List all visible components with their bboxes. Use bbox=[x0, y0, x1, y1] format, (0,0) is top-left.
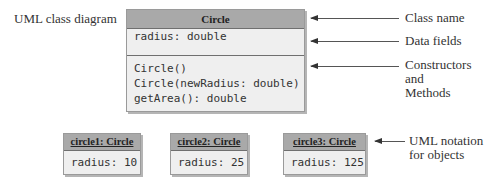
annotation-objects-line1: UML notation bbox=[409, 134, 483, 148]
object-box-circle3: circle3: Circle radius: 125 bbox=[283, 133, 366, 175]
arrow-left-icon bbox=[375, 141, 405, 142]
object-field: radius: 25 bbox=[171, 151, 247, 175]
method-get-area: getArea(): double bbox=[134, 91, 304, 106]
arrow-left-icon bbox=[311, 18, 399, 19]
annotation-class-name: Class name bbox=[405, 11, 465, 25]
class-name-header: Circle bbox=[127, 10, 304, 29]
annotation-constructors-line1: Constructors and bbox=[405, 58, 493, 86]
object-box-circle2: circle2: Circle radius: 25 bbox=[170, 133, 248, 175]
annotation-uml-objects: UML notation for objects bbox=[409, 134, 483, 162]
method-constructor-default: Circle() bbox=[134, 61, 304, 76]
data-fields-section: radius: double bbox=[127, 29, 304, 55]
object-field: radius: 125 bbox=[284, 151, 365, 175]
annotation-constructors-line2: Methods bbox=[405, 86, 493, 100]
object-field: radius: 10 bbox=[64, 151, 140, 175]
data-field: radius: double bbox=[134, 29, 304, 44]
methods-section: Circle() Circle(newRadius: double) getAr… bbox=[127, 55, 304, 106]
object-header: circle1: Circle bbox=[64, 134, 140, 151]
arrow-left-icon bbox=[311, 66, 399, 67]
class-box-circle: Circle radius: double Circle() Circle(ne… bbox=[126, 9, 305, 112]
object-header: circle3: Circle bbox=[284, 134, 365, 151]
object-box-circle1: circle1: Circle radius: 10 bbox=[63, 133, 141, 175]
annotation-objects-line2: for objects bbox=[409, 148, 483, 162]
object-header: circle2: Circle bbox=[171, 134, 247, 151]
annotation-data-fields: Data fields bbox=[405, 34, 462, 48]
arrow-left-icon bbox=[311, 41, 399, 42]
method-constructor-radius: Circle(newRadius: double) bbox=[134, 76, 304, 91]
annotation-constructors-methods: Constructors and Methods bbox=[405, 58, 493, 100]
uml-class-diagram-label: UML class diagram bbox=[14, 11, 117, 27]
